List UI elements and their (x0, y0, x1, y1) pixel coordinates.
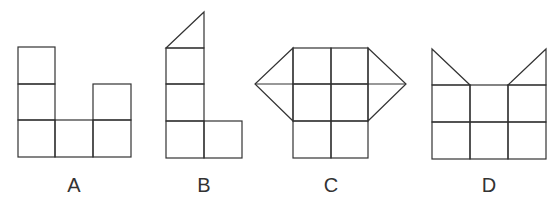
figure-b: B (166, 12, 242, 196)
figure-c: C (255, 48, 406, 196)
figure-c-label: C (324, 174, 338, 196)
figure-b-label: B (197, 174, 210, 196)
figure-d-label: D (482, 174, 496, 196)
figure-a-label: A (67, 174, 81, 196)
figure-a: A (18, 47, 131, 196)
figure-d: D (432, 49, 546, 196)
figure-options-diagram: A B C D (0, 0, 560, 208)
